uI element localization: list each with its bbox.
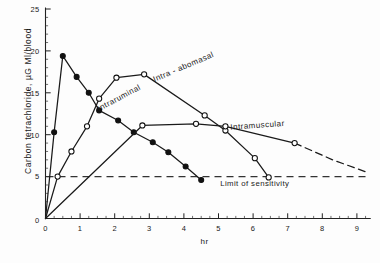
x-tick-label: 6 bbox=[251, 224, 255, 233]
data-point bbox=[84, 124, 89, 129]
y-tick-label: 0 bbox=[35, 216, 39, 225]
data-point bbox=[114, 75, 119, 80]
data-point bbox=[52, 130, 57, 135]
data-point bbox=[55, 174, 60, 179]
y-tick-label: 25 bbox=[31, 5, 40, 14]
chart-canvas: 01234567890510152025hr Limit of sensitiv… bbox=[0, 0, 380, 263]
y-axis-label: Carbon tetrachloride, µG Ml/blood bbox=[23, 21, 33, 181]
x-axis-label: hr bbox=[201, 237, 209, 246]
data-point bbox=[60, 53, 65, 58]
data-point bbox=[140, 123, 145, 128]
data-point bbox=[199, 177, 204, 182]
figure-container: Carbon tetrachloride, µG Ml/blood 012345… bbox=[0, 0, 380, 263]
data-point bbox=[116, 118, 121, 123]
x-tick-label: 5 bbox=[216, 224, 220, 233]
data-point bbox=[223, 124, 228, 129]
curve-label-intra-abomasal: Intra - abomasal bbox=[152, 50, 215, 84]
x-tick-label: 8 bbox=[320, 224, 324, 233]
data-point bbox=[69, 149, 74, 154]
data-point bbox=[183, 164, 188, 169]
curve-labels-group: Limit of sensitivityIntra - abomasalIntr… bbox=[96, 50, 289, 188]
x-tick-label: 2 bbox=[112, 224, 116, 233]
data-point bbox=[97, 96, 102, 101]
x-tick-label: 0 bbox=[43, 224, 47, 233]
series-line bbox=[46, 56, 202, 219]
series-line bbox=[46, 124, 295, 219]
y-tick-label: 5 bbox=[35, 172, 39, 181]
data-point bbox=[166, 150, 171, 155]
x-tick-label: 9 bbox=[355, 224, 359, 233]
x-tick-label: 1 bbox=[78, 224, 82, 233]
data-point bbox=[142, 72, 147, 77]
data-point bbox=[193, 121, 198, 126]
series-line bbox=[46, 74, 269, 218]
curve-label-intraruminal: Intraruminal bbox=[96, 83, 142, 113]
series-dashed-tail bbox=[295, 143, 368, 172]
data-point bbox=[150, 140, 155, 145]
x-tick-label: 7 bbox=[285, 224, 289, 233]
x-tick-label: 3 bbox=[147, 224, 151, 233]
curve-label-intramuscular: Intramuscular bbox=[230, 119, 285, 132]
data-point bbox=[202, 113, 207, 118]
data-point bbox=[74, 74, 79, 79]
series-intramuscular bbox=[46, 121, 368, 218]
data-point bbox=[86, 90, 91, 95]
data-point bbox=[292, 140, 297, 145]
x-tick-label: 4 bbox=[182, 224, 186, 233]
series-intraruminal bbox=[46, 53, 204, 218]
axes-group: 01234567890510152025hr bbox=[31, 5, 371, 246]
data-series-group bbox=[46, 53, 368, 218]
data-point bbox=[252, 156, 257, 161]
limit-of-sensitivity-label: Limit of sensitivity bbox=[220, 179, 289, 188]
